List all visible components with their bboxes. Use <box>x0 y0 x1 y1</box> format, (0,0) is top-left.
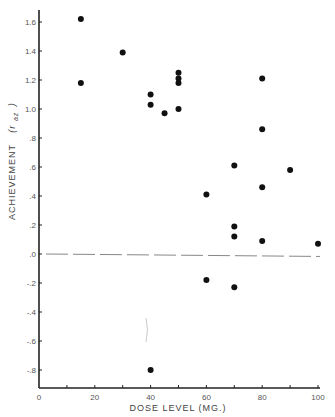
data-points <box>78 16 321 373</box>
y-tick-label: -.4 <box>27 308 37 317</box>
y-axis-title-main: ACHIEVEMENT <box>7 144 17 220</box>
y-tick-label: .8 <box>29 134 36 143</box>
data-point <box>259 76 265 82</box>
y-tick-label: .6 <box>29 163 36 172</box>
data-point <box>259 238 265 244</box>
x-tick-label: 20 <box>90 393 99 402</box>
data-point <box>176 106 182 112</box>
data-point <box>287 167 293 173</box>
data-point <box>176 80 182 86</box>
y-tick-label: .4 <box>29 192 36 201</box>
x-axis-title: DOSE LEVEL (MG.) <box>129 403 226 413</box>
y-tick-label: 1.0 <box>25 105 37 114</box>
x-tick-label: 0 <box>37 393 42 402</box>
y-axis-title-close: ) <box>7 102 17 107</box>
x-tick-label: 40 <box>146 393 155 402</box>
y-tick-label: .0 <box>29 250 36 259</box>
y-axis-title-subscript: az <box>12 112 19 121</box>
data-point <box>259 126 265 132</box>
data-point <box>203 277 209 283</box>
data-point <box>162 110 168 116</box>
data-point <box>203 192 209 198</box>
data-point <box>148 367 154 373</box>
x-tick-label: 100 <box>311 393 325 402</box>
y-tick-label: -.8 <box>27 366 37 375</box>
data-point <box>78 80 84 86</box>
data-point <box>259 184 265 190</box>
zero-reference-dashed-line <box>46 254 320 256</box>
data-point <box>148 92 154 98</box>
data-point <box>231 163 237 169</box>
axes <box>39 10 320 388</box>
data-point <box>78 16 84 22</box>
scan-artifact-mark <box>146 318 148 342</box>
data-point <box>148 102 154 108</box>
data-point <box>231 223 237 229</box>
y-tick-label: -.2 <box>27 279 37 288</box>
svg-text:ACHIEVEMENT (r az: ACHIEVEMENT (r az ) <box>7 102 20 220</box>
data-point <box>231 234 237 240</box>
y-tick-label: 1.2 <box>25 76 37 85</box>
data-point <box>176 70 182 76</box>
data-point <box>120 49 126 55</box>
x-tick-label: 60 <box>202 393 211 402</box>
reference-line <box>46 254 320 256</box>
y-axis-title-symbol: (r <box>7 125 17 133</box>
y-tick-label: .2 <box>29 221 36 230</box>
y-tick-label: 1.6 <box>25 18 37 27</box>
data-point <box>315 241 321 247</box>
data-point <box>231 284 237 290</box>
x-tick-label: 80 <box>258 393 267 402</box>
y-tick-label: -.6 <box>27 337 37 346</box>
y-tick-label: 1.4 <box>25 47 37 56</box>
scatter-chart: 020406080100 1.61.41.21.0.8.6.4.2.0-.2-.… <box>0 0 335 417</box>
y-axis-title: ACHIEVEMENT (r az ) <box>7 102 20 220</box>
